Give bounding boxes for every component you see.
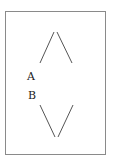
lower-left-line — [40, 105, 55, 137]
upper-left-line — [40, 32, 54, 63]
label-b: B — [28, 90, 36, 101]
label-a: A — [27, 71, 35, 82]
upper-right-line — [57, 32, 72, 63]
lower-right-line — [58, 105, 73, 137]
chevron-lines — [0, 0, 114, 163]
